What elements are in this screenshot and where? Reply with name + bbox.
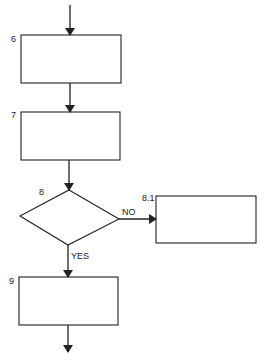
node-label-7: 7 bbox=[11, 110, 16, 120]
node-label-8: 8 bbox=[39, 187, 44, 197]
edge-label-no: NO bbox=[122, 207, 136, 217]
process-box-7: 7 bbox=[11, 110, 120, 160]
process-box-9: 9 bbox=[9, 276, 118, 325]
node-label-9: 9 bbox=[9, 276, 14, 286]
process-box-6: 6 bbox=[11, 34, 121, 83]
process-box-8.1: 8.1 bbox=[142, 193, 256, 243]
decision-diamond-8: 8 bbox=[20, 187, 119, 245]
flowchart: 6 7 8 NO 8.1 YES 9 bbox=[0, 0, 268, 363]
edge-label-yes: YES bbox=[71, 251, 89, 261]
node-label-6: 6 bbox=[11, 34, 16, 44]
node-label-8.1: 8.1 bbox=[142, 193, 155, 203]
